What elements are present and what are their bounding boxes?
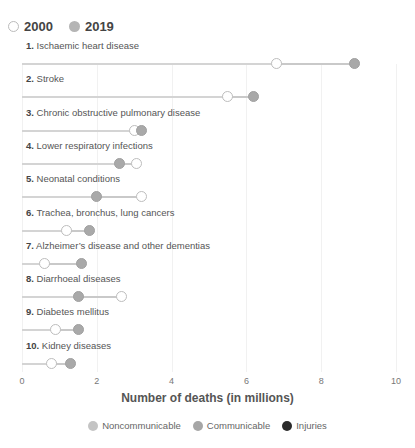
legend-item-noncommunicable[interactable]: Noncommunicable [88, 420, 181, 431]
rank-number: 2. [26, 73, 34, 84]
legend-item-2000[interactable]: 2000 [8, 19, 53, 34]
row-label: 6. Trachea, bronchus, lung cancers [26, 207, 174, 218]
chart-row: 5. Neonatal conditions [22, 173, 402, 206]
rank-number: 10. [26, 340, 39, 351]
baseline-track [22, 230, 67, 232]
data-point-2019[interactable] [65, 358, 76, 369]
legend-item-injuries[interactable]: Injuries [282, 420, 327, 431]
legend-label: 2000 [24, 19, 53, 34]
legend-label: Injuries [296, 420, 327, 431]
cause-name: Alzheimer’s disease and other dementias [36, 240, 210, 251]
data-point-2019[interactable] [136, 125, 147, 136]
rank-number: 7. [26, 240, 34, 251]
cause-name: Ischaemic heart disease [37, 40, 139, 51]
row-label: 8. Diarrhoeal diseases [26, 273, 121, 284]
data-point-2019[interactable] [114, 158, 125, 169]
legend-label: Communicable [207, 420, 270, 431]
rank-number: 1. [26, 40, 34, 51]
row-label: 7. Alzheimer’s disease and other dementi… [26, 240, 210, 251]
cause-name: Diabetes mellitus [37, 306, 109, 317]
cause-name: Lower respiratory infections [37, 140, 153, 151]
change-segment [97, 196, 142, 198]
x-tick-label: 6 [244, 376, 249, 386]
baseline-track [22, 96, 228, 98]
data-point-2000[interactable] [271, 58, 282, 69]
category-legend: NoncommunicableCommunicableInjuries [0, 420, 415, 431]
cause-name: Diarrhoeal diseases [37, 273, 121, 284]
chart-row: 2. Stroke [22, 73, 402, 106]
data-point-2019[interactable] [248, 91, 259, 102]
x-tick-label: 10 [391, 376, 401, 386]
x-axis-ticks: 0246810 [22, 376, 396, 390]
chart-row: 6. Trachea, bronchus, lung cancers [22, 207, 402, 240]
rank-number: 3. [26, 107, 34, 118]
row-label: 3. Chronic obstructive pulmonary disease [26, 107, 200, 118]
change-segment [78, 296, 121, 298]
chart-row: 9. Diabetes mellitus [22, 306, 402, 339]
rank-number: 5. [26, 173, 34, 184]
data-point-2019[interactable] [84, 225, 95, 236]
legend-item-communicable[interactable]: Communicable [193, 420, 270, 431]
data-point-2000[interactable] [116, 291, 127, 302]
plot-area: 1. Ischaemic heart disease2. Stroke3. Ch… [22, 40, 396, 372]
baseline-track [22, 163, 119, 165]
baseline-track [22, 130, 134, 132]
row-label: 10. Kidney diseases [26, 340, 111, 351]
cause-name: Trachea, bronchus, lung cancers [36, 207, 174, 218]
x-axis-label: Number of deaths (in millions) [0, 391, 415, 405]
baseline-track [22, 63, 276, 65]
x-tick-label: 0 [19, 376, 24, 386]
data-point-2019[interactable] [73, 324, 84, 335]
chart-row: 7. Alzheimer’s disease and other dementi… [22, 240, 402, 273]
data-point-2000[interactable] [136, 191, 147, 202]
cause-name: Chronic obstructive pulmonary disease [37, 107, 201, 118]
data-point-2019[interactable] [91, 191, 102, 202]
x-tick-label: 4 [169, 376, 174, 386]
data-point-2000[interactable] [39, 258, 50, 269]
chart-row: 8. Diarrhoeal diseases [22, 273, 402, 306]
circle-icon [282, 421, 292, 431]
cause-name: Neonatal conditions [37, 173, 120, 184]
baseline-track [22, 196, 97, 198]
row-label: 4. Lower respiratory infections [26, 140, 153, 151]
circle-icon [88, 421, 98, 431]
cause-name: Kidney diseases [42, 340, 111, 351]
x-tick-label: 2 [94, 376, 99, 386]
legend-label: 2019 [85, 19, 114, 34]
x-tick-label: 8 [319, 376, 324, 386]
data-point-2000[interactable] [50, 324, 61, 335]
rank-number: 4. [26, 140, 34, 151]
chart-row: 10. Kidney diseases [22, 340, 402, 373]
rank-number: 9. [26, 306, 34, 317]
data-point-2000[interactable] [222, 91, 233, 102]
data-point-2019[interactable] [73, 291, 84, 302]
legend-label: Noncommunicable [102, 420, 181, 431]
circle-icon [193, 421, 203, 431]
data-point-2000[interactable] [46, 358, 57, 369]
data-point-2019[interactable] [76, 258, 87, 269]
baseline-track [22, 296, 78, 298]
row-label: 9. Diabetes mellitus [26, 306, 109, 317]
row-label: 5. Neonatal conditions [26, 173, 120, 184]
open-circle-icon [8, 21, 19, 32]
row-label: 2. Stroke [26, 73, 64, 84]
row-label: 1. Ischaemic heart disease [26, 40, 139, 51]
cause-name: Stroke [37, 73, 64, 84]
chart-row: 3. Chronic obstructive pulmonary disease [22, 107, 402, 140]
chart-row: 4. Lower respiratory infections [22, 140, 402, 173]
data-point-2019[interactable] [349, 58, 360, 69]
rank-number: 8. [26, 273, 34, 284]
filled-circle-icon [69, 21, 80, 32]
change-segment [276, 63, 355, 65]
data-point-2000[interactable] [61, 225, 72, 236]
rank-number: 6. [26, 207, 34, 218]
data-point-2000[interactable] [131, 158, 142, 169]
year-legend: 2000 2019 [8, 19, 124, 34]
chart-row: 1. Ischaemic heart disease [22, 40, 402, 73]
legend-item-2019[interactable]: 2019 [69, 19, 114, 34]
